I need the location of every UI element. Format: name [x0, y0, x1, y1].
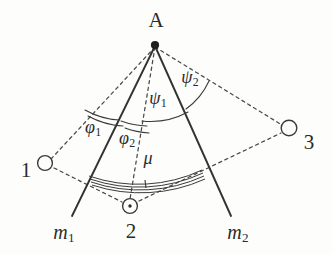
- apex-label-A: A: [148, 10, 163, 31]
- angle-label-psi2-base: ψ: [181, 67, 192, 87]
- angle-label-phi1: φ1: [85, 118, 101, 139]
- figure-root: A 1 2 3 m1 m2 φ1 φ2 ψ1 ψ2 μ: [0, 0, 332, 254]
- angle-label-psi1-base: ψ: [149, 88, 160, 108]
- node2-center-dot: [128, 204, 131, 207]
- angle-label-psi2: ψ2: [181, 68, 198, 89]
- angle-label-phi2: φ2: [119, 129, 135, 150]
- apex-point-marker: [151, 41, 159, 49]
- node-label-2: 2: [126, 221, 137, 242]
- geometry-diagram: [0, 0, 332, 254]
- angle-label-psi1: ψ1: [149, 89, 166, 110]
- angle-label-phi1-subscript: 1: [95, 125, 101, 139]
- node3-circle-marker: [281, 120, 297, 136]
- angle-label-phi2-base: φ: [119, 128, 129, 148]
- node1-circle-marker: [38, 156, 53, 171]
- node-label-3: 3: [304, 132, 315, 153]
- ray-label-m2-base: m: [227, 221, 241, 243]
- angle-arc-psi1: [142, 112, 188, 121]
- angle-label-mu: μ: [143, 149, 152, 167]
- angle-label-phi1-base: φ: [85, 117, 95, 137]
- angle-label-psi2-subscript: 2: [193, 75, 199, 89]
- angle-arc-mu: [89, 170, 205, 193]
- ray-label-m2-subscript: 2: [242, 230, 249, 245]
- ray-label-m1-base: m: [53, 221, 67, 243]
- ray-label-m1-subscript: 1: [68, 230, 75, 245]
- angle-label-psi1-subscript: 1: [161, 96, 167, 110]
- angle-label-phi2-subscript: 2: [129, 136, 135, 150]
- node-label-1: 1: [21, 160, 32, 181]
- dashed-line-apex-to-node3: [155, 47, 282, 125]
- ray-label-m2: m2: [227, 222, 248, 245]
- ray-label-m1: m1: [53, 222, 74, 245]
